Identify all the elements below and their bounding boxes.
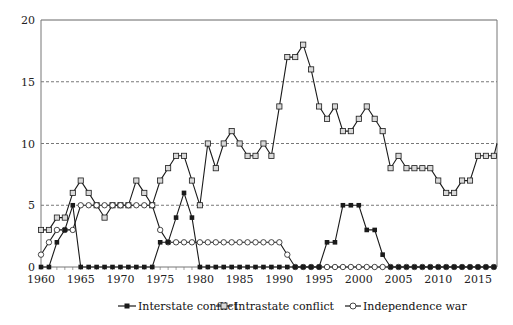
data-point [475,153,480,158]
data-point [102,265,107,270]
data-point [118,203,123,208]
x-tick-label: 1980 [186,273,214,286]
data-point [158,240,163,245]
data-point [412,166,417,171]
data-point [110,203,115,208]
data-series [38,42,497,270]
data-point [38,252,43,257]
data-point [380,252,385,257]
series-line [41,45,497,230]
data-point [102,203,107,208]
data-point [47,265,52,270]
data-point [388,265,393,270]
data-point [436,265,441,270]
data-point [261,240,266,245]
series-line [41,205,494,267]
data-point [198,265,203,270]
data-point [444,190,449,195]
axes [41,20,497,270]
x-tick-label: 1975 [146,273,174,286]
data-point [78,265,83,270]
data-point [348,129,353,134]
data-point [483,153,488,158]
data-point [173,153,178,158]
x-tick-label: 2005 [385,273,413,286]
data-point [70,190,75,195]
data-point [245,240,250,245]
data-point [269,265,274,270]
data-point [484,265,489,270]
data-point [102,215,107,220]
data-point [110,265,115,270]
data-point [428,265,433,270]
data-point [348,264,353,269]
data-point [245,153,250,158]
data-point [142,190,147,195]
data-point [309,265,314,270]
data-point [269,153,274,158]
legend: Interstate conflict Intrastate conflict … [118,300,467,313]
data-point [134,203,139,208]
data-point [396,153,401,158]
gridlines [41,20,497,205]
data-point [492,265,497,270]
data-point [181,153,186,158]
data-point [468,265,473,270]
data-point [94,265,99,270]
data-point [70,203,75,208]
data-point [86,203,91,208]
y-tick-label: 20 [21,14,35,27]
data-point [86,265,91,270]
data-point [94,203,99,208]
data-point [118,265,123,270]
data-point [150,203,155,208]
data-point [357,203,362,208]
data-point [301,42,306,47]
y-tick-label: 5 [28,199,35,212]
data-point [332,264,337,269]
x-tick-label: 1960 [27,273,55,286]
data-point [46,227,51,232]
data-point [293,265,298,270]
data-point [364,228,369,233]
data-point [142,265,147,270]
data-point [229,265,234,270]
legend-label: Independence war [363,300,467,313]
data-point [428,166,433,171]
data-point [452,190,457,195]
data-point [356,264,361,269]
hollow-circle-icon [350,303,356,309]
data-point [396,265,401,270]
data-point [277,104,282,109]
hollow-square-icon [221,303,227,309]
series-independence-war [38,203,496,270]
data-point [452,265,457,270]
data-point [229,240,234,245]
data-point [197,240,202,245]
data-point [364,264,369,269]
data-point [459,178,464,183]
data-point [436,178,441,183]
data-point [372,228,377,233]
x-tick-label: 1995 [305,273,333,286]
data-point [372,116,377,121]
data-point [460,265,465,270]
data-point [285,54,290,59]
data-point [404,166,409,171]
data-point [404,265,409,270]
data-point [388,166,393,171]
data-point [221,265,226,270]
data-point [197,203,202,208]
data-point [158,178,163,183]
data-point [55,240,60,245]
data-point [150,265,155,270]
data-point [78,178,83,183]
data-point [182,191,187,196]
data-point [372,264,377,269]
data-point [491,153,496,158]
data-point [54,215,59,220]
data-point [245,265,250,270]
data-point [277,240,282,245]
data-point [221,141,226,146]
data-point [341,203,346,208]
